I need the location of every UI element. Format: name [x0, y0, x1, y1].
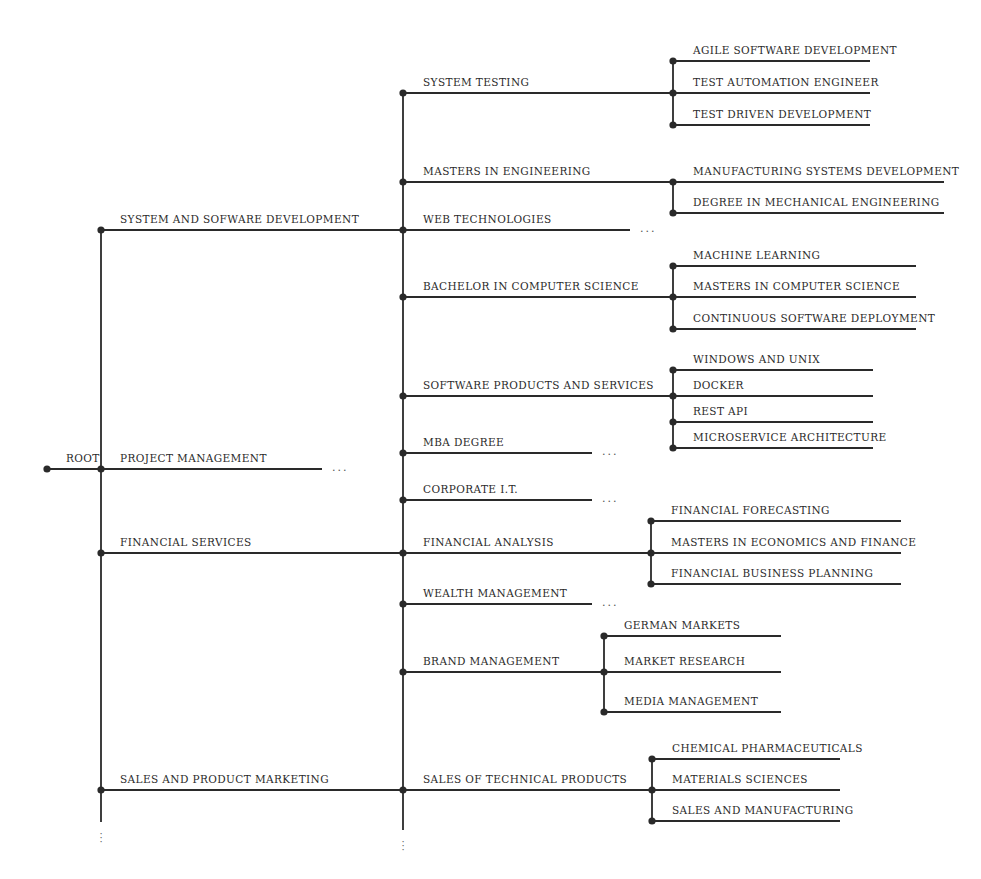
branch-2-child-1-ellipsis: ...	[602, 598, 619, 608]
branch-1-label[interactable]: PROJECT MANAGEMENT	[120, 452, 267, 464]
branch-1-child-0-label[interactable]: MBA DEGREE	[423, 436, 504, 448]
branch-0-child-4-leaf-0-label[interactable]: WINDOWS AND UNIX	[693, 353, 820, 365]
branch-3-child-1-leaf-0-label[interactable]: CHEMICAL PHARMACEUTICALS	[672, 742, 863, 754]
branch-2-child-0-leaf-0-label[interactable]: FINANCIAL FORECASTING	[671, 504, 830, 516]
branch-2-child-0-leaf-2-label[interactable]: FINANCIAL BUSINESS PLANNING	[671, 567, 873, 579]
branch-3-label[interactable]: SALES AND PRODUCT MARKETING	[120, 773, 329, 785]
branch-3-child-0-label[interactable]: BRAND MANAGEMENT	[423, 655, 559, 667]
branch-0-child-3-label[interactable]: BACHELOR IN COMPUTER SCIENCE	[423, 280, 639, 292]
branch-0-label[interactable]: SYSTEM AND SOFWARE DEVELOPMENT	[120, 213, 359, 225]
branch-3-child-1-label[interactable]: SALES OF TECHNICAL PRODUCTS	[423, 773, 627, 785]
branch-0-child-4-label[interactable]: SOFTWARE PRODUCTS AND SERVICES	[423, 379, 654, 391]
more-below-marker: ···	[98, 832, 104, 844]
branch-1-child-1-ellipsis: ...	[602, 494, 619, 504]
branch-1-child-1-label[interactable]: CORPORATE I.T.	[423, 483, 518, 495]
branch-0-child-3-leaf-0-label[interactable]: MACHINE LEARNING	[693, 249, 820, 261]
branch-2-child-0-leaf-1-label[interactable]: MASTERS IN ECONOMICS AND FINANCE	[671, 536, 916, 548]
branch-0-child-4-leaf-1-label[interactable]: DOCKER	[693, 379, 744, 391]
branch-2-child-1-label[interactable]: WEALTH MANAGEMENT	[423, 587, 567, 599]
branch-0-child-2-label[interactable]: WEB TECHNOLOGIES	[423, 213, 552, 225]
branch-3-child-0-leaf-2-label[interactable]: MEDIA MANAGEMENT	[624, 695, 758, 707]
root-node	[43, 465, 50, 472]
branch-3-child-1-leaf-1-label[interactable]: MATERIALS SCIENCES	[672, 773, 808, 785]
branch-3-child-0-leaf-1-label[interactable]: MARKET RESEARCH	[624, 655, 745, 667]
branch-3-child-1-leaf-2-label[interactable]: SALES AND MANUFACTURING	[672, 804, 854, 816]
branch-1-ellipsis: ...	[332, 463, 349, 473]
more-below-marker-level2: ···	[400, 840, 406, 852]
branch-0-child-3-leaf-1-label[interactable]: MASTERS IN COMPUTER SCIENCE	[693, 280, 900, 292]
branch-0-child-1-leaf-1-label[interactable]: DEGREE IN MECHANICAL ENGINEERING	[693, 196, 940, 208]
branch-1-child-0-ellipsis: ...	[602, 447, 619, 457]
branch-0-child-1-leaf-0-label[interactable]: MANUFACTURING SYSTEMS DEVELOPMENT	[693, 165, 959, 177]
branch-2-child-0-label[interactable]: FINANCIAL ANALYSIS	[423, 536, 554, 548]
branch-0-child-3-leaf-2-label[interactable]: CONTINUOUS SOFTWARE DEPLOYMENT	[693, 312, 935, 324]
branch-0-child-4-leaf-2-label[interactable]: REST API	[693, 405, 748, 417]
branch-0-child-1-label[interactable]: MASTERS IN ENGINEERING	[423, 165, 591, 177]
branch-0-child-0-leaf-1-label[interactable]: TEST AUTOMATION ENGINEER	[693, 76, 879, 88]
branch-0-child-0-leaf-2-label[interactable]: TEST DRIVEN DEVELOPMENT	[693, 108, 871, 120]
root-label[interactable]: ROOT	[66, 452, 100, 464]
branch-3-child-0-leaf-0-label[interactable]: GERMAN MARKETS	[624, 619, 740, 631]
branch-0-child-4-leaf-3-label[interactable]: MICROSERVICE ARCHITECTURE	[693, 431, 887, 443]
branch-0-child-2-ellipsis: ...	[640, 224, 657, 234]
branch-0-child-0-leaf-0-label[interactable]: AGILE SOFTWARE DEVELOPMENT	[693, 44, 897, 56]
branch-0-child-0-label[interactable]: SYSTEM TESTING	[423, 76, 529, 88]
branch-2-label[interactable]: FINANCIAL SERVICES	[120, 536, 252, 548]
